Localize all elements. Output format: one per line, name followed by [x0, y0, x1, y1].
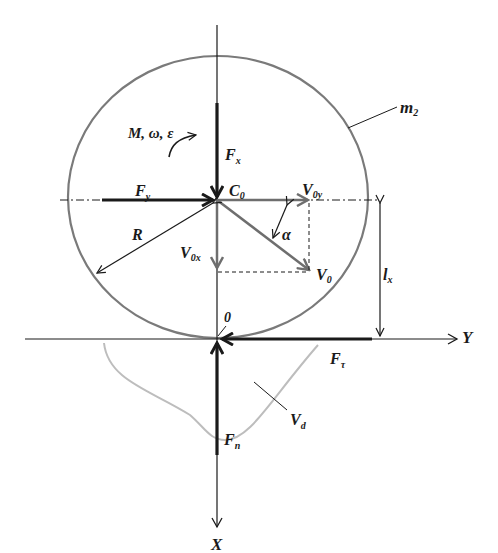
- free-body-diagram: M, ω, ε Fx Fy C0 V0y α R V0x V0 m2 lx 0 …: [0, 0, 498, 553]
- lx-label: lx: [383, 266, 392, 285]
- radius-label: R: [131, 226, 143, 243]
- fx-label: Fx: [224, 146, 241, 166]
- fn-label: Fn: [223, 431, 241, 451]
- vd-label: Vd: [290, 411, 307, 431]
- alpha-label: α: [282, 226, 292, 243]
- v0x-label: V0x: [180, 244, 201, 263]
- deformation-zone-curve: [104, 343, 318, 440]
- mass-label: m2: [400, 98, 418, 118]
- x-axis-label: X: [210, 535, 223, 553]
- origin-leader-line: [218, 326, 226, 336]
- v0y-label: V0y: [302, 181, 323, 200]
- y-axis-label: Y: [462, 328, 474, 347]
- origin-label: 0: [224, 310, 231, 325]
- v0-label: V0: [316, 266, 332, 285]
- mass-leader-line: [348, 107, 397, 128]
- ftau-label: Fτ: [329, 350, 346, 370]
- moment-label: M, ω, ε: [127, 125, 174, 141]
- vd-leader-line: [254, 382, 287, 410]
- velocity-v0-arrow: [217, 200, 309, 270]
- c0-label: C0: [229, 182, 245, 201]
